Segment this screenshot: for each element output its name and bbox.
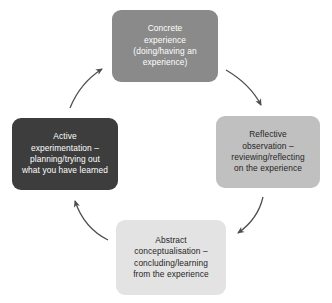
arrow-concrete-to-reflective — [226, 70, 261, 105]
arrow-abstract-to-active — [75, 201, 108, 240]
node-abstract-conceptualisation-label: Abstract conceptualisation – concluding/… — [133, 235, 209, 281]
node-concrete-experience-label: Concrete experience (doing/having an exp… — [133, 23, 196, 69]
arrow-active-to-concrete — [70, 69, 102, 108]
node-reflective-observation-label: Reflective observation – reviewing/refle… — [231, 129, 304, 175]
arrow-reflective-to-abstract — [238, 197, 263, 233]
node-concrete-experience[interactable]: Concrete experience (doing/having an exp… — [112, 10, 218, 82]
node-active-experimentation[interactable]: Active experimentation – planning/trying… — [12, 118, 118, 190]
node-reflective-observation[interactable]: Reflective observation – reviewing/refle… — [216, 116, 320, 188]
node-active-experimentation-label: Active experimentation – planning/trying… — [22, 131, 108, 177]
node-abstract-conceptualisation[interactable]: Abstract conceptualisation – concluding/… — [116, 220, 226, 295]
experiential-learning-cycle-diagram: Concrete experience (doing/having an exp… — [0, 0, 332, 303]
